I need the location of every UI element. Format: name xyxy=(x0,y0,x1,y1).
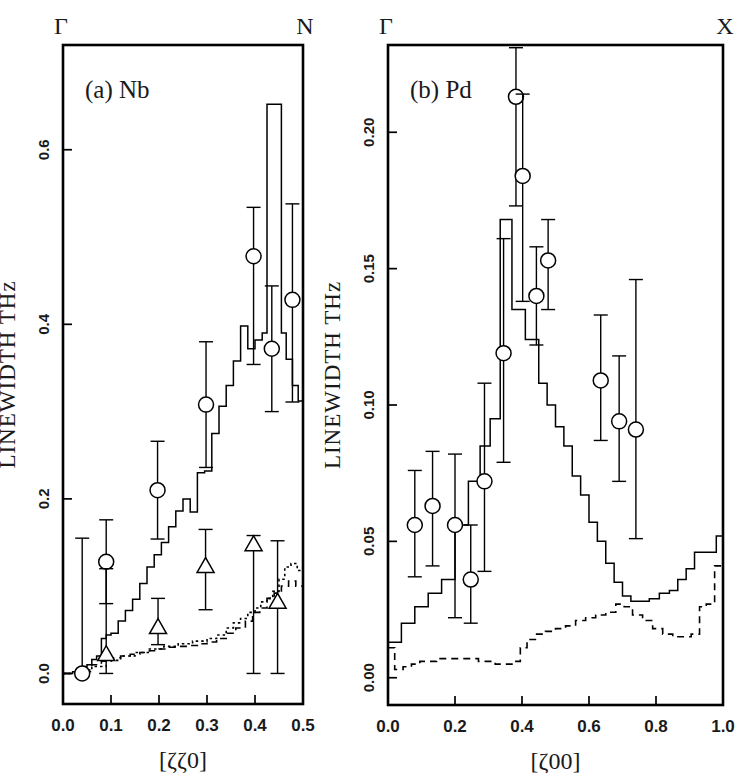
marker-triangle-a-9 xyxy=(197,558,214,573)
x-tick-label-b-4: 0.8 xyxy=(644,717,668,736)
figure-container: ΓN0.00.10.20.30.40.50.00.20.40.6[ζζ0]LIN… xyxy=(0,0,747,773)
panel-b: ΓX0.00.20.40.60.81.00.000.050.100.150.20… xyxy=(320,13,735,773)
marker-circle-a-2 xyxy=(150,483,165,498)
marker-circle-a-4 xyxy=(246,249,261,264)
y-tick-label-b-3: 0.15 xyxy=(360,254,377,283)
data-point-a-11 xyxy=(269,541,286,674)
marker-triangle-a-11 xyxy=(269,593,286,608)
data-point-b-3 xyxy=(463,525,478,623)
series-b-0-calculated-longitudinal-solid xyxy=(388,220,723,643)
y-tick-label-b-0: 0.00 xyxy=(360,663,377,692)
data-point-b-11 xyxy=(612,356,627,481)
marker-circle-b-7 xyxy=(515,168,530,183)
zone-start-symbol-b: Γ xyxy=(379,13,393,39)
x-tick-label-b-1: 0.2 xyxy=(443,717,467,736)
x-axis-title-a: [ζζ0] xyxy=(159,747,207,773)
data-point-a-8 xyxy=(150,598,167,644)
data-point-a-6 xyxy=(285,204,300,402)
data-point-a-0 xyxy=(75,538,90,681)
marker-circle-b-5 xyxy=(496,346,511,361)
marker-circle-b-9 xyxy=(541,253,556,268)
y-tick-label-b-2: 0.10 xyxy=(360,390,377,419)
marker-circle-a-1 xyxy=(99,554,114,569)
panel-label-a: (a) Nb xyxy=(85,76,150,104)
marker-circle-b-1 xyxy=(425,498,440,513)
data-point-b-7 xyxy=(515,94,530,301)
zone-start-symbol-a: Γ xyxy=(54,13,68,39)
plot-area-a xyxy=(63,104,303,681)
x-tick-label-a-2: 0.2 xyxy=(147,716,171,735)
data-point-a-2 xyxy=(150,441,165,539)
data-point-b-12 xyxy=(628,280,643,539)
y-axis-title-b: LINEWIDTH THz xyxy=(320,281,345,469)
x-axis-title-b: [ζ00] xyxy=(531,748,581,773)
x-tick-label-b-5: 1.0 xyxy=(711,717,735,736)
marker-circle-b-8 xyxy=(529,288,544,303)
series-a-0-calculated-upper-branch xyxy=(63,104,303,673)
data-point-b-0 xyxy=(407,470,422,576)
marker-circle-a-6 xyxy=(285,292,300,307)
y-axis-title-a: LINEWIDTH THz xyxy=(0,280,20,468)
x-tick-label-a-4: 0.4 xyxy=(243,716,267,735)
marker-circle-b-2 xyxy=(448,518,463,533)
marker-circle-b-12 xyxy=(628,422,643,437)
data-point-b-5 xyxy=(496,239,511,463)
y-tick-label-a-0: 0.0 xyxy=(35,663,52,684)
data-point-b-4 xyxy=(477,383,492,571)
marker-circle-b-6 xyxy=(508,89,523,104)
data-point-a-7 xyxy=(98,569,115,674)
data-point-b-10 xyxy=(593,315,608,440)
x-tick-label-a-0: 0.0 xyxy=(51,716,75,735)
x-tick-label-b-2: 0.4 xyxy=(510,717,534,736)
marker-triangle-a-10 xyxy=(245,536,262,551)
data-point-b-1 xyxy=(425,451,440,566)
linewidth-figure: ΓN0.00.10.20.30.40.50.00.20.40.6[ζζ0]LIN… xyxy=(0,0,747,773)
marker-circle-b-4 xyxy=(477,474,492,489)
y-tick-label-a-1: 0.2 xyxy=(35,488,52,509)
marker-circle-a-5 xyxy=(264,341,279,356)
marker-circle-b-0 xyxy=(407,518,422,533)
data-point-a-9 xyxy=(197,529,214,609)
marker-circle-a-0 xyxy=(75,666,90,681)
zone-end-symbol-b: X xyxy=(716,13,733,39)
plot-area-b xyxy=(388,48,723,670)
y-tick-label-a-3: 0.6 xyxy=(35,139,52,160)
marker-circle-a-3 xyxy=(199,397,214,412)
x-tick-label-b-0: 0.0 xyxy=(376,717,400,736)
y-tick-label-b-4: 0.20 xyxy=(360,118,377,147)
plot-frame-b xyxy=(388,45,723,705)
x-tick-label-a-5: 0.5 xyxy=(291,716,315,735)
marker-circle-b-3 xyxy=(463,572,478,587)
x-tick-label-a-3: 0.3 xyxy=(195,716,219,735)
marker-triangle-a-8 xyxy=(150,619,167,634)
zone-end-symbol-a: N xyxy=(296,13,313,39)
y-tick-label-b-1: 0.05 xyxy=(360,527,377,556)
marker-circle-b-11 xyxy=(612,414,627,429)
data-point-b-2 xyxy=(448,454,463,618)
y-tick-label-a-2: 0.4 xyxy=(35,313,52,335)
x-tick-label-b-3: 0.6 xyxy=(577,717,601,736)
x-tick-label-a-1: 0.1 xyxy=(99,716,123,735)
marker-circle-b-10 xyxy=(593,373,608,388)
panel-a: ΓN0.00.10.20.30.40.50.00.20.40.6[ζζ0]LIN… xyxy=(0,13,315,773)
panel-label-b: (b) Pd xyxy=(410,76,472,104)
data-point-a-10 xyxy=(245,536,262,674)
series-b-1-calculated-transverse-dashed xyxy=(388,566,723,670)
marker-triangle-a-7 xyxy=(98,646,115,661)
